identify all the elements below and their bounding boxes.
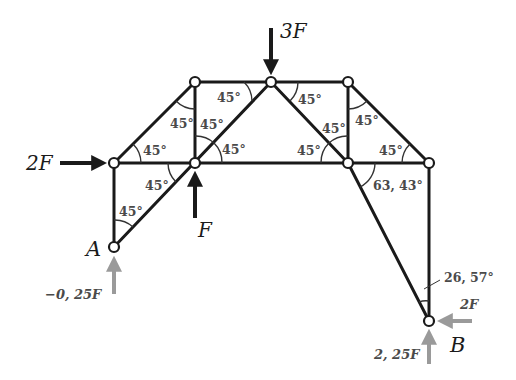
angle-arc-2: [133, 144, 141, 163]
angle-label-4: 45°: [222, 142, 246, 157]
angle-label-2: 45°: [143, 143, 167, 158]
angle-label-8: 45°: [298, 92, 322, 107]
angle-label-7: 45°: [217, 90, 241, 105]
angle-arc-12: [402, 144, 410, 163]
support-reactions: −0, 25F 2, 25F 2F: [45, 263, 479, 364]
load-label-top: 3F: [280, 19, 308, 43]
angle-arc-9: [329, 136, 348, 143]
reaction-label-b-horizontal: 2F: [459, 297, 479, 312]
angle-label-9: 45°: [322, 121, 346, 136]
truss-diagram: 45° 45° 45° 45° 45° 45° 45° 45° 45° 45° …: [0, 0, 516, 380]
angle-arc-5: [168, 163, 176, 182]
support-labels: A B: [84, 237, 465, 357]
reaction-label-a-vertical: −0, 25F: [45, 287, 102, 302]
angle-arc-7: [244, 82, 252, 101]
angle-label-11: 45°: [355, 113, 379, 128]
angle-label-1: 45°: [170, 116, 194, 131]
node-mid-right: [424, 158, 434, 168]
node-top-right: [343, 77, 353, 87]
angle-label-10: 45°: [297, 143, 321, 158]
angle-arc-10: [321, 143, 329, 163]
node-top-center: [266, 77, 276, 87]
node-mid-left: [109, 158, 119, 168]
angle-arc-11: [348, 101, 367, 109]
applied-loads: 3F 2F F: [25, 19, 308, 242]
node-mid-center-left: [190, 158, 200, 168]
truss-members: [114, 82, 429, 321]
angle-label-12: 45°: [379, 143, 403, 158]
angle-leader-line: [424, 280, 440, 289]
angle-arc-1: [176, 101, 195, 109]
angle-label-15: 26, 57°: [444, 270, 494, 285]
support-label-a: A: [84, 237, 101, 261]
load-label-left: 2F: [25, 151, 54, 175]
angle-label-5: 45°: [145, 178, 169, 193]
support-label-b: B: [449, 333, 465, 357]
reaction-label-b-vertical: 2, 25F: [373, 347, 420, 362]
angle-label-14: 63, 43°: [373, 178, 423, 193]
angle-arc-4: [214, 143, 222, 163]
node-top-left: [190, 77, 200, 87]
node-support-b: [424, 316, 434, 326]
angle-label-6: 45°: [119, 204, 143, 219]
angle-arc-3: [195, 136, 214, 143]
node-support-a: [109, 242, 119, 252]
angle-arc-8: [290, 82, 298, 101]
angle-label-3: 45°: [200, 117, 224, 132]
angle-arc-6: [114, 220, 133, 227]
load-label-center: F: [197, 218, 213, 242]
node-mid-center-right: [343, 158, 353, 168]
